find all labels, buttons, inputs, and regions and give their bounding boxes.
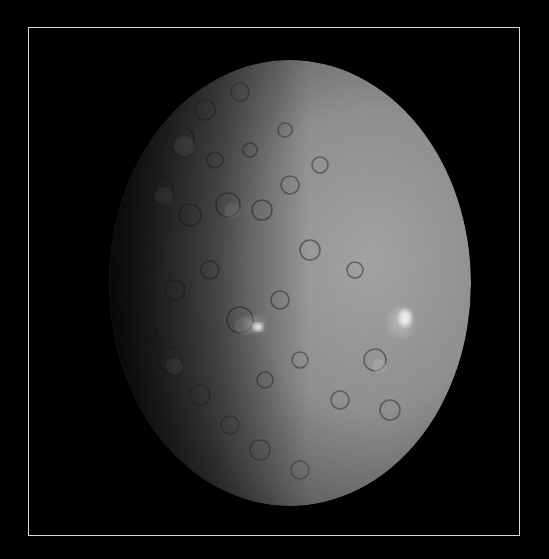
image-border-frame [28,27,520,536]
